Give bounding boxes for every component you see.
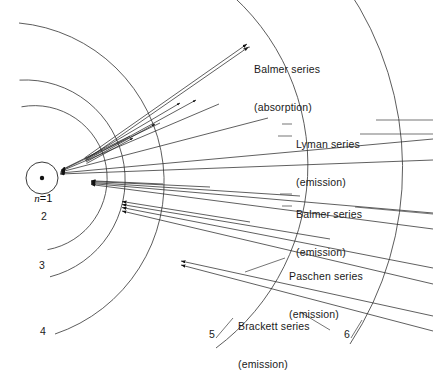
ray-group-paschen-emission — [122, 202, 433, 285]
shell-label-4: 4 — [40, 325, 46, 337]
shell-label-2: 2 — [41, 210, 47, 222]
shell-label-5: 5 — [209, 328, 215, 340]
shell-label-3: 3 — [39, 259, 45, 271]
shell-arc-n3 — [20, 80, 126, 277]
series-label-brackett-emission: Brackett series (emission) — [238, 295, 310, 374]
leader-shell-5 — [216, 318, 233, 338]
leader-balmer-em-3 — [355, 207, 433, 214]
nucleus-label: n=1 — [22, 180, 52, 216]
leader-paschen — [245, 258, 285, 272]
shell-arc-n2 — [22, 106, 108, 250]
